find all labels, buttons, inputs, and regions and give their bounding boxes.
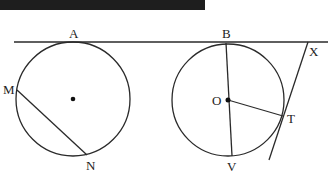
label-V: V [227, 159, 237, 174]
geometry-diagram: A B X M N O T V [0, 0, 330, 177]
radius-OT [228, 100, 283, 116]
label-N: N [86, 158, 96, 173]
left-circle-center [71, 97, 76, 102]
label-T: T [287, 111, 295, 126]
label-M: M [3, 82, 15, 97]
center-O-point [226, 98, 231, 103]
tangent-XT [269, 42, 308, 160]
label-O: O [212, 93, 221, 108]
chord-MN [17, 90, 87, 155]
label-A: A [69, 26, 79, 41]
label-B: B [222, 26, 231, 41]
label-X: X [309, 44, 319, 59]
